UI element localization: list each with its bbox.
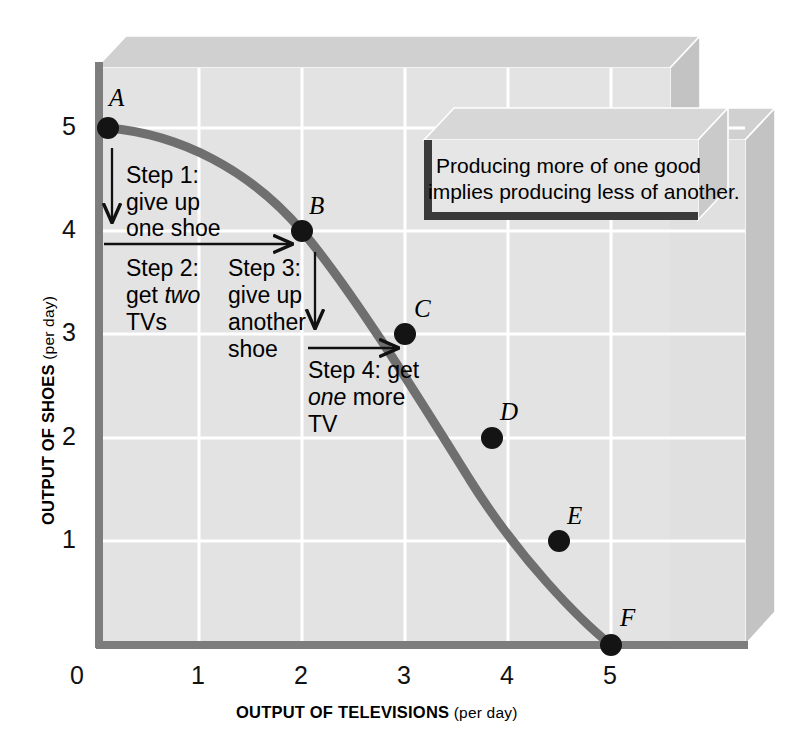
- step2-line2: get two: [126, 283, 200, 308]
- x-tick-label-0: 0: [70, 662, 84, 689]
- point-label-E: E: [567, 502, 582, 529]
- point-label-A: A: [109, 84, 124, 111]
- point-label-D: D: [500, 398, 518, 425]
- data-point-E: [548, 530, 570, 552]
- step4-emphasis-one: one: [308, 384, 346, 410]
- y-axis-title-sub: (per day): [40, 296, 57, 364]
- step2-line3: TVs: [126, 310, 167, 335]
- x-tick-label-3: 3: [397, 662, 411, 689]
- point-label-F: F: [620, 604, 635, 631]
- step2-emphasis-two: two: [164, 282, 200, 308]
- callout-line-2: implies producing less of another.: [428, 179, 700, 205]
- step1-line1: Step 1:: [126, 163, 199, 188]
- x-tick-label-5: 5: [603, 662, 617, 689]
- data-point-A: [97, 117, 119, 139]
- point-label-B: B: [309, 192, 324, 219]
- y-tick-label-3: 3: [62, 319, 76, 346]
- x-axis-title-sub: (per day): [449, 704, 517, 721]
- y-tick-label-5: 5: [62, 113, 76, 140]
- step3-line3: another: [228, 310, 306, 335]
- ppf-figure: 5 4 3 2 1 0 1 2 3 4 5 OUTPUT OF SHOES (p…: [0, 0, 804, 754]
- step4-line2: one more: [308, 385, 405, 410]
- step2-line1: Step 2:: [126, 256, 199, 281]
- y-tick-label-1: 1: [62, 526, 76, 553]
- step2-line2-prefix: get: [126, 282, 164, 308]
- x-tick-label-1: 1: [191, 662, 205, 689]
- data-point-F: [600, 634, 622, 656]
- y-axis-title-main: OUTPUT OF SHOES: [39, 364, 57, 525]
- step1-line2: give up: [126, 190, 200, 215]
- data-point-C: [394, 323, 416, 345]
- data-point-B: [291, 220, 313, 242]
- point-label-C: C: [414, 295, 431, 322]
- step1-line3: one shoe: [126, 216, 221, 241]
- y-tick-label-2: 2: [62, 423, 76, 450]
- y-axis-title: OUTPUT OF SHOES (per day): [40, 296, 58, 525]
- callout-line-1: Producing more of one good: [436, 153, 692, 179]
- x-tick-label-4: 4: [500, 662, 514, 689]
- step4-line1: Step 4: get: [308, 358, 419, 383]
- step3-line4: shoe: [228, 337, 278, 362]
- data-point-D: [481, 427, 503, 449]
- step3-line1: Step 3:: [228, 256, 301, 281]
- step4-line2-suffix: more: [346, 384, 405, 410]
- x-tick-label-2: 2: [294, 662, 308, 689]
- step3-line2: give up: [228, 283, 302, 308]
- x-axis-title-main: OUTPUT OF TELEVISIONS: [236, 703, 449, 721]
- y-tick-label-4: 4: [62, 216, 76, 243]
- x-axis-title: OUTPUT OF TELEVISIONS (per day): [236, 704, 518, 722]
- step4-line3: TV: [308, 412, 337, 437]
